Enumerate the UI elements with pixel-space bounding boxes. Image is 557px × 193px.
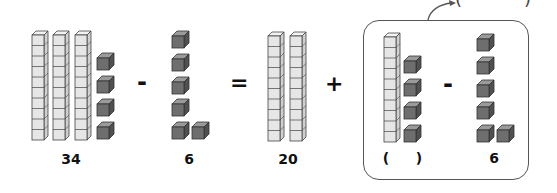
grouped-subtrahend-label: 6: [474, 150, 514, 166]
ten-rod: [268, 32, 284, 141]
unit-cube: [192, 122, 209, 139]
ten-rod: [53, 31, 69, 140]
minus-sign-2: -: [443, 70, 453, 98]
answer-blank-close-paren: ): [524, 0, 531, 9]
minuend-label: 34: [51, 151, 91, 167]
unit-cube: [97, 76, 114, 93]
minus-sign-1: -: [137, 68, 147, 96]
unit-cube: [172, 77, 189, 94]
ten-rod: [75, 31, 91, 140]
unit-cube: [97, 99, 114, 116]
unit-cube: [172, 31, 189, 48]
blank-close-paren: ): [414, 150, 424, 166]
blank-open-paren: (: [381, 150, 391, 166]
equals-sign: =: [230, 70, 248, 95]
plus-sign: +: [325, 71, 343, 96]
ten-rod: [32, 31, 48, 140]
unit-cube: [172, 122, 189, 139]
unit-cube: [97, 53, 114, 70]
curved-arrow-icon: [428, 0, 456, 20]
answer-blank-open-paren: (: [455, 0, 462, 9]
unit-cube: [172, 54, 189, 71]
unit-cube: [97, 122, 114, 139]
unit-cube: [172, 99, 189, 116]
tens-part-label: 20: [268, 151, 308, 167]
ten-rod: [290, 32, 306, 141]
subtrahend-label: 6: [169, 151, 209, 167]
